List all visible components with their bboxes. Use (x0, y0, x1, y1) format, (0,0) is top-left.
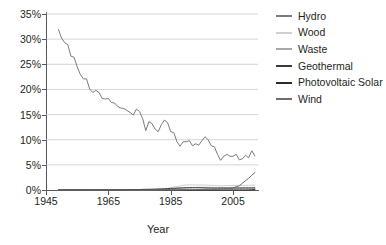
y-tick-label: 5% (1, 160, 41, 171)
legend-swatch-icon (276, 98, 292, 100)
legend-swatch-icon (276, 65, 292, 67)
legend-swatch-icon (276, 82, 292, 84)
y-tick-mark (42, 115, 47, 116)
x-tick-label: 1985 (151, 196, 191, 207)
y-tick-mark (42, 14, 47, 15)
plot-area (46, 14, 258, 190)
y-tick-label: 35% (1, 9, 41, 20)
legend-swatch-icon (276, 32, 292, 34)
y-tick-label: 15% (1, 110, 41, 121)
y-tick-mark (42, 140, 47, 141)
y-tick-label: 30% (1, 34, 41, 45)
y-tick-mark (42, 39, 47, 40)
y-tick-label: 20% (1, 84, 41, 95)
legend-item-wind[interactable]: Wind (276, 91, 386, 108)
x-tick-label: 1945 (26, 196, 66, 207)
legend-item-label: Hydro (298, 11, 326, 22)
y-axis-labels: 35%30%25%20%15%10%5%0% (0, 0, 41, 245)
x-tick-mark (46, 190, 47, 195)
legend-item-label: Wind (298, 94, 322, 105)
y-tick-mark (42, 165, 47, 166)
legend-item-label: Geothermal (298, 61, 353, 72)
legend-item-geothermal[interactable]: Geothermal (276, 58, 386, 75)
legend-item-label: Waste (298, 44, 327, 55)
legend-item-hydro[interactable]: Hydro (276, 8, 386, 25)
x-tick-label: 2005 (213, 196, 253, 207)
legend-item-waste[interactable]: Waste (276, 41, 386, 58)
series-lines (46, 14, 258, 190)
chart-legend: HydroWoodWasteGeothermalPhotovoltaic Sol… (276, 8, 386, 108)
chart-figure: 35%30%25%20%15%10%5%0% Year HydroWoodWas… (0, 0, 386, 245)
y-tick-mark (42, 89, 47, 90)
x-axis-title: Year (123, 223, 193, 235)
legend-item-photovoltaic-solar[interactable]: Photovoltaic Solar (276, 74, 386, 91)
y-tick-mark (42, 64, 47, 65)
x-tick-mark (171, 190, 172, 195)
legend-item-label: Wood (298, 27, 325, 38)
y-tick-label: 0% (1, 185, 41, 196)
legend-swatch-icon (276, 15, 292, 17)
legend-swatch-icon (276, 48, 292, 50)
x-tick-mark (233, 190, 234, 195)
x-tick-label: 1965 (88, 196, 128, 207)
series-line-hydro (58, 30, 254, 161)
y-tick-label: 25% (1, 59, 41, 70)
y-tick-label: 10% (1, 135, 41, 146)
legend-item-wood[interactable]: Wood (276, 25, 386, 42)
x-tick-mark (108, 190, 109, 195)
legend-item-label: Photovoltaic Solar (298, 77, 383, 88)
